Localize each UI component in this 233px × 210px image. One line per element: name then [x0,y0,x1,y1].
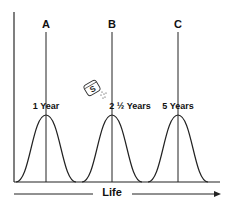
x-axis-label: Life [102,186,122,198]
peak-letter-a: A [42,18,50,30]
peak-label-c: 5 Years [162,101,193,111]
peak-letter-c: C [174,18,182,30]
arrowhead-icon [214,191,221,197]
peak-label-b: 2 ½ Years [109,101,150,111]
peak-letter-b: B [108,18,116,30]
salt-grains [100,91,106,98]
salt-shaker-icon: S [83,79,101,96]
peak-label-a: 1 Year [33,101,59,111]
